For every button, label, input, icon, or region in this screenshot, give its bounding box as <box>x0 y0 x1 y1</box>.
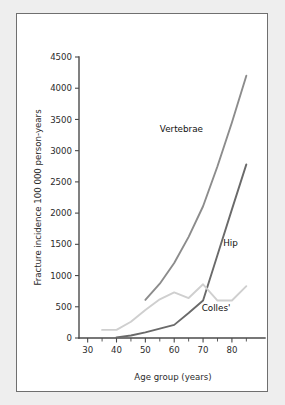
y-tick-label: 4000 <box>50 83 72 93</box>
figure-panel: 050010001500200025003000350040004500 304… <box>16 13 268 392</box>
annotation-hip: Hip <box>223 238 238 248</box>
chart-canvas: 050010001500200025003000350040004500 304… <box>17 14 267 391</box>
annotation-colles: Colles' <box>202 303 231 313</box>
y-tick-label: 4500 <box>50 52 72 62</box>
y-tick-label: 3500 <box>50 115 72 125</box>
x-tick-label: 60 <box>169 345 180 355</box>
y-tick-label: 2500 <box>50 177 72 187</box>
x-axis-title: Age group (years) <box>134 372 211 382</box>
y-axis-title: Fracture incidence 100 000 person-years <box>33 109 43 286</box>
series-line-vertebrae <box>145 76 246 300</box>
x-tick-label: 30 <box>82 345 93 355</box>
line-chart: 050010001500200025003000350040004500 304… <box>17 14 267 391</box>
x-tick-label: 40 <box>111 345 122 355</box>
y-tick-label: 1500 <box>50 239 72 249</box>
y-tick-label: 3000 <box>50 146 72 156</box>
y-tick-label: 0 <box>67 333 72 343</box>
series-annotations: VertebraeHipColles' <box>160 124 238 313</box>
series-group <box>102 76 246 338</box>
x-tick-label: 80 <box>226 345 237 355</box>
y-tick-labels: 050010001500200025003000350040004500 <box>50 52 72 343</box>
y-tick-label: 500 <box>56 302 72 312</box>
x-tick-label: 70 <box>198 345 209 355</box>
x-tick-labels: 304050607080 <box>82 345 237 355</box>
y-tick-label: 1000 <box>50 271 72 281</box>
annotation-vertebrae: Vertebrae <box>160 124 203 134</box>
y-tick-label: 2000 <box>50 208 72 218</box>
x-tick-label: 50 <box>140 345 151 355</box>
